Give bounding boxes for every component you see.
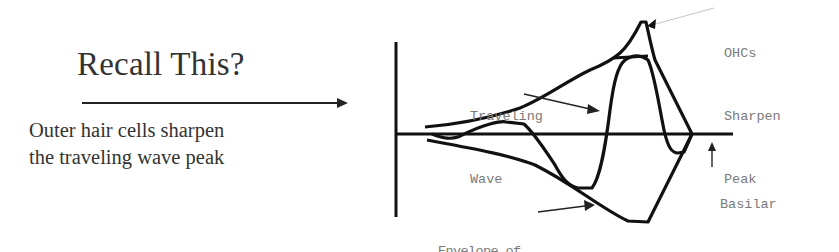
envelope-label-line-1: Envelope of — [438, 241, 543, 252]
pointer-arrow-icon — [82, 98, 348, 108]
ohcs-label-line-1: OHCs — [724, 43, 781, 64]
basilar-membrane-arrow-icon — [708, 142, 716, 167]
traveling-wave-label-line-2: Wave — [470, 169, 543, 190]
envelope-arrow-icon — [538, 200, 595, 212]
envelope-label: Envelope of Traveling Wave — [438, 199, 543, 252]
traveling-wave-label: Traveling Wave — [470, 64, 543, 211]
ohcs-leader — [647, 8, 714, 29]
traveling-wave-label-line-1: Traveling — [470, 106, 543, 127]
ohcs-label-line-2: Sharpen — [724, 106, 781, 127]
basilar-membrane-label-line-1: Basilar — [720, 194, 785, 215]
traveling-wave-diagram — [0, 0, 839, 252]
basilar-membrane-label: Basilar Membrane — [720, 152, 785, 252]
